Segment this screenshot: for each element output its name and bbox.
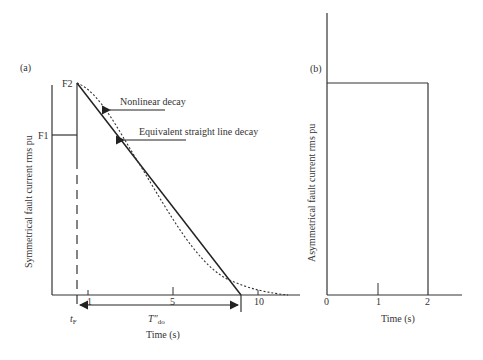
f2-label: F2 bbox=[62, 78, 73, 89]
figure: (a) F1 F2 Nonlinear decay Equivalent str… bbox=[0, 0, 483, 360]
x-axis-label-b: Time (s) bbox=[381, 313, 415, 325]
tick-0-label-b: 0 bbox=[324, 296, 329, 307]
x-axis-label-a: Time (s) bbox=[146, 329, 180, 341]
y-axis-label-b: Asymmetrical fault current rms pu bbox=[306, 124, 317, 262]
panel-b-label: (b) bbox=[310, 63, 322, 75]
panel-b: (b) 0 1 2 Time (s) Asymmetrical fault cu… bbox=[306, 13, 462, 325]
tick-2-label-b: 2 bbox=[425, 296, 430, 307]
nonlinear-label: Nonlinear decay bbox=[120, 96, 186, 107]
f1-label: F1 bbox=[38, 130, 49, 141]
tick-1-label-b: 1 bbox=[376, 296, 381, 307]
tf-label: tF bbox=[70, 313, 77, 326]
straight-label: Equivalent straight line decay bbox=[139, 126, 258, 137]
tick-10-label: 10 bbox=[254, 296, 264, 307]
tdo-label: T″do bbox=[148, 313, 165, 326]
straight-line-decay bbox=[77, 83, 241, 295]
nonlinear-decay-curve bbox=[77, 83, 288, 295]
panel-a: (a) F1 F2 Nonlinear decay Equivalent str… bbox=[20, 62, 300, 341]
panel-a-label: (a) bbox=[20, 62, 31, 74]
y-axis-label-a: Symmetrical fault current rms pu bbox=[23, 135, 34, 268]
